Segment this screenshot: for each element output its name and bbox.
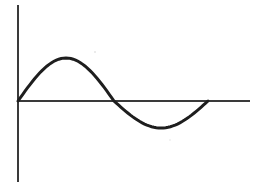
- diagram-svg: [0, 0, 260, 190]
- sine-wave-diagram: [0, 0, 260, 190]
- scan-speck: [169, 139, 171, 141]
- scan-speck: [94, 51, 96, 53]
- wave-curve: [18, 58, 208, 128]
